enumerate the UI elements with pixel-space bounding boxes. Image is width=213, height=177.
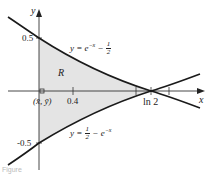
x-tick-label-0.4: 0.4	[67, 97, 78, 106]
region-label: R	[58, 68, 64, 78]
centroid-label: (x̄, ȳ)	[33, 97, 51, 106]
x-tick-label-ln2: ln 2	[143, 97, 158, 107]
y-tick-label-neg0.5: -0.5	[17, 139, 31, 148]
figure-canvas	[0, 0, 213, 177]
y-axis-arrow-icon	[36, 9, 42, 17]
lower-curve-equation: y = 12 − e−x	[70, 126, 111, 141]
figure-caption: Figure	[2, 166, 22, 173]
fraction-half: 12	[106, 41, 112, 56]
y-tick-label-0.5: 0.5	[22, 34, 33, 43]
upper-curve-equation: y = e−x − 12	[70, 41, 111, 56]
fraction-half: 12	[85, 126, 91, 141]
x-axis-label: x	[199, 95, 203, 105]
y-axis-label: y	[31, 6, 35, 16]
